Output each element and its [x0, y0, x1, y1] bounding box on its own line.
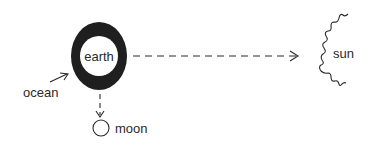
earth-node: earth [71, 22, 127, 90]
ocean-annotation: ocean [23, 73, 68, 100]
sun-node: sun [320, 14, 354, 86]
moon-circle [93, 120, 109, 136]
moon-node: moon [93, 120, 148, 136]
earth-to-sun-arrow [133, 51, 298, 61]
ocean-label: ocean [23, 85, 58, 100]
sun-label: sun [333, 46, 354, 61]
moon-label: moon [115, 121, 148, 136]
earth-sun-moon-diagram: earth sun ocean moon [0, 0, 371, 149]
earth-label: earth [84, 49, 114, 64]
earth-to-moon-arrow [96, 94, 104, 117]
